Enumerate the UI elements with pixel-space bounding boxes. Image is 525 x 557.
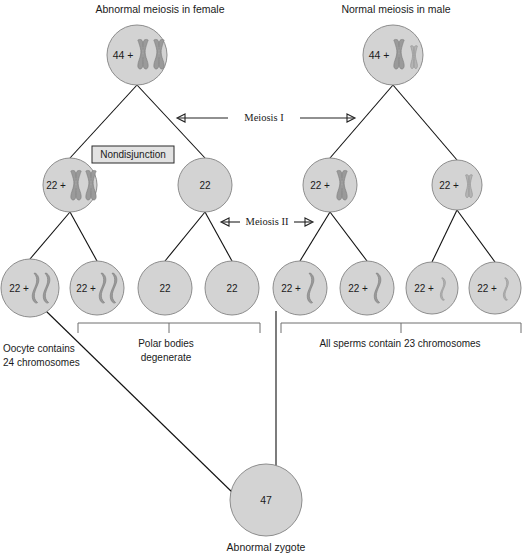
cell-sperm-x-1[interactable]: 22 +	[273, 261, 327, 315]
meiosis-two-indicator: Meiosis II	[221, 216, 313, 227]
meiosis-one-label: Meiosis I	[244, 112, 284, 123]
cell-count-label: 22 +	[477, 283, 497, 294]
cell-secondary-spermatocyte-y[interactable]: 22 +	[432, 160, 482, 210]
cell-sperm-y-2[interactable]: 22 +	[469, 262, 521, 314]
cell-oogonium[interactable]: 44 +	[107, 25, 167, 85]
cell-count-label: 44 +	[369, 49, 390, 61]
oocyte-note-line2: 24 chromosomes	[3, 357, 80, 368]
sperms-note: All sperms contain 23 chromosomes	[319, 338, 480, 349]
heading-female: Abnormal meiosis in female	[96, 3, 225, 15]
polar-bodies-bracket	[78, 323, 260, 333]
cell-secondary-oocyte[interactable]: 22 +	[43, 158, 97, 212]
zygote-caption: Abnormal zygote	[227, 541, 306, 553]
oocyte-note: Oocyte contains 24 chromosomes	[3, 343, 80, 368]
cell-count-label: 22 +	[281, 283, 301, 294]
cell-count-label: 22	[226, 283, 238, 294]
cell-sperm-x-2[interactable]: 22 +	[340, 261, 394, 315]
meiosis-two-label: Meiosis II	[246, 216, 289, 227]
polar-note-line2: degenerate	[141, 352, 192, 363]
oocyte-note-line1: Oocyte contains	[3, 343, 75, 354]
cell-spermatogonium[interactable]: 44 +	[363, 25, 423, 85]
cell-count-label: 22 +	[9, 283, 29, 294]
cell-count-label: 22 +	[310, 180, 330, 191]
polar-note-line1: Polar bodies	[138, 338, 194, 349]
cell-secondary-spermatocyte-x[interactable]: 22 +	[303, 158, 357, 212]
cell-first-polar-body[interactable]: 22	[178, 158, 232, 212]
heading-male: Normal meiosis in male	[341, 3, 450, 15]
diagram-canvas: Nondisjunction Abnormal meiosis in femal…	[0, 0, 525, 557]
cell-count-label: 22 +	[439, 180, 459, 191]
meiosis-one-indicator: Meiosis I	[177, 112, 355, 123]
cell-oocyte[interactable]: 22 +	[1, 259, 59, 317]
cell-count-label: 22 +	[348, 283, 368, 294]
meiosis-nondisjunction-diagram: Nondisjunction Abnormal meiosis in femal…	[0, 0, 525, 557]
nondisjunction-label: Nondisjunction	[100, 149, 166, 160]
cell-count-label: 22	[199, 180, 211, 191]
cell-count-label: 22 +	[76, 283, 96, 294]
cell-sperm-y-1[interactable]: 22 +	[406, 262, 458, 314]
cell-count-label: 22 +	[414, 283, 434, 294]
sperms-bracket	[281, 323, 521, 333]
polar-bodies-note: Polar bodies degenerate	[138, 338, 194, 363]
cell-count-label: 47	[260, 494, 272, 506]
cell-count-label: 22 +	[46, 180, 66, 191]
cell-abnormal-zygote[interactable]: 47	[230, 464, 302, 536]
cell-count-label: 22	[159, 283, 171, 294]
cell-polar-body-2[interactable]: 22	[138, 261, 192, 315]
cell-count-label: 44 +	[113, 49, 134, 61]
cell-polar-body-1[interactable]: 22 +	[70, 261, 124, 315]
cell-polar-body-3[interactable]: 22	[205, 261, 259, 315]
nondisjunction-callout: Nondisjunction	[92, 146, 174, 163]
